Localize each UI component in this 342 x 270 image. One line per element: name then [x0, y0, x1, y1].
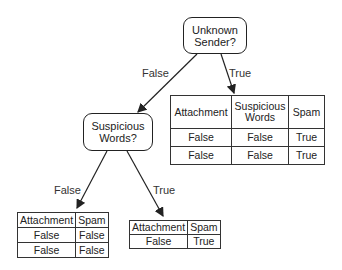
- cell: False: [18, 228, 76, 243]
- node-label-line1: Suspicious: [91, 120, 144, 132]
- header-attachment: Attachment: [18, 213, 76, 228]
- header-suspicious-words: Suspicious Words: [232, 96, 289, 129]
- edge-label-child-true: True: [153, 184, 175, 196]
- table-row: False False: [18, 228, 109, 243]
- cell: True: [289, 147, 325, 165]
- edge-label-child-false: False: [54, 184, 81, 196]
- node-label-line2: Words?: [91, 132, 144, 144]
- edge-label-root-false: False: [142, 67, 169, 79]
- cell: False: [171, 147, 232, 165]
- cell: True: [289, 129, 325, 147]
- cell: False: [18, 243, 76, 258]
- header-attachment: Attachment: [130, 221, 188, 235]
- node-unknown-sender: Unknown Sender?: [183, 17, 247, 54]
- edge-child-false: [77, 151, 107, 208]
- cell: False: [232, 147, 289, 165]
- cell: False: [76, 243, 108, 258]
- node-label-line2: Sender?: [192, 36, 238, 48]
- node-label-line1: Unknown: [192, 24, 238, 36]
- table-child-true: Attachment Spam False True: [129, 220, 221, 249]
- header-spam: Spam: [289, 96, 325, 129]
- table-root-true: Attachment Suspicious Words Spam False F…: [170, 95, 325, 165]
- cell: True: [188, 235, 220, 249]
- table-row: False False True: [171, 129, 325, 147]
- edge-label-root-true: True: [229, 67, 251, 79]
- node-suspicious-words: Suspicious Words?: [83, 113, 153, 151]
- cell: False: [171, 129, 232, 147]
- header-spam: Spam: [76, 213, 108, 228]
- cell: False: [130, 235, 188, 249]
- table-row: False False True: [171, 147, 325, 165]
- cell: False: [232, 129, 289, 147]
- header-attachment: Attachment: [171, 96, 232, 129]
- header-spam: Spam: [188, 221, 220, 235]
- table-row: False False: [18, 243, 109, 258]
- table-row: False True: [130, 235, 221, 249]
- table-child-false: Attachment Spam False False False False: [17, 212, 109, 258]
- cell: False: [76, 228, 108, 243]
